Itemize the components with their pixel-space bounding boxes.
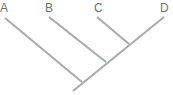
trunk-line [73, 17, 164, 91]
branch-b [49, 17, 106, 62]
cladogram-tree [0, 0, 173, 95]
taxon-label-c: C [94, 2, 103, 14]
branch-c [97, 17, 129, 44]
taxon-label-a: A [0, 2, 8, 14]
branch-a [5, 18, 82, 82]
taxon-label-d: D [160, 2, 169, 14]
taxon-label-b: B [45, 2, 53, 14]
